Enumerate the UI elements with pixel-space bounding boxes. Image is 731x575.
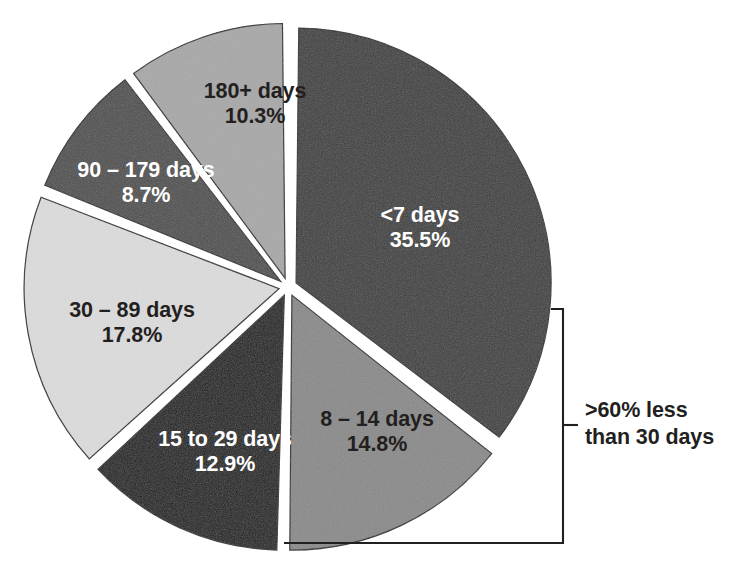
callout-annotation-text: >60% less than 30 days — [585, 397, 731, 452]
pie-chart-graphic — [0, 0, 731, 575]
callout-line-2: than 30 days — [585, 424, 731, 451]
pie-chart-figure: <7 days 35.5% 8 – 14 days 14.8% 15 to 29… — [0, 0, 731, 575]
callout-line-1: >60% less — [585, 397, 731, 424]
